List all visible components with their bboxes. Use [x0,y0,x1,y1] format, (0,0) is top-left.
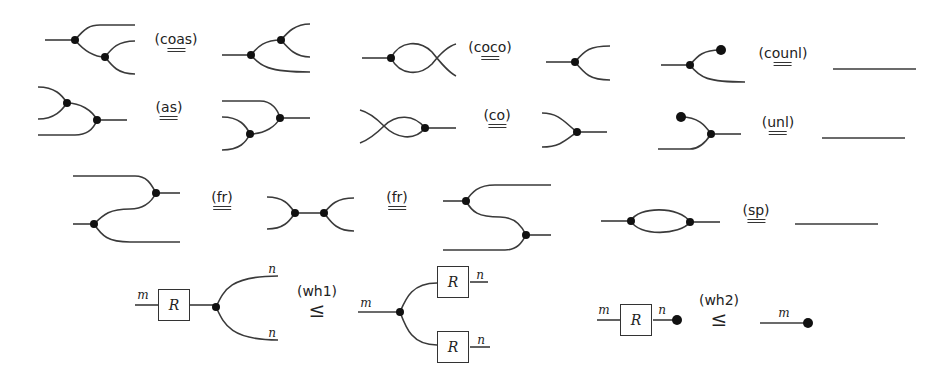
diagram-as-rhs [222,101,310,150]
wire-label-n: n [476,268,484,282]
axiom-label-coas: (coas) [154,32,197,52]
equals-sign [167,48,185,52]
axiom-label-wh2: (wh2)≤ [699,293,739,329]
equals-sign [481,56,499,60]
equals-sign [388,206,406,210]
axiom-label-coco: (coco) [468,40,511,60]
wire-label-m: m [598,303,609,317]
axiom-label-co: (co) [483,108,510,128]
diagram-as-lhs [38,87,127,135]
equals-sign [160,116,178,120]
equals-sign [213,206,231,210]
leq-sign: ≤ [297,300,337,320]
axiom-label-sp: (sp) [742,203,769,223]
axiom-label-as: (as) [156,100,183,120]
diagram-co-lhs [360,110,456,143]
diagram-coas-lhs [45,25,135,74]
diagram-co-rhs [542,113,607,147]
relation-box-r: R [437,266,469,298]
leq-sign: ≤ [699,309,739,329]
diagram-unl-lhs [658,112,741,149]
wire-label-n: n [268,326,276,340]
diagram-fr-rhs [443,185,551,250]
diagram-wh1-lhs [135,276,278,340]
equals-sign [747,219,765,223]
equals-sign [774,62,792,66]
diagram-counl-lhs [661,45,745,82]
diagram-coco-lhs [362,44,456,76]
axiom-label-unl: (unl) [762,115,795,135]
wire-label-n: n [658,303,666,317]
diagram-fr-lhs [73,176,180,242]
diagram-fr-middle [267,197,354,231]
diagram-coco-rhs [546,46,610,80]
axiom-label-wh1: (wh1)≤ [297,284,337,320]
wire-label-m: m [778,306,789,320]
axiom-label-fr: (fr) [386,190,408,210]
wire-label-m: m [137,288,148,302]
diagram-sp-lhs [601,210,720,233]
axiom-label-counl: (counl) [759,46,808,66]
wire-label-n: n [268,262,276,276]
wire-label-n: n [477,333,485,347]
diagram-coas-rhs [222,24,310,72]
relation-box-r: R [158,289,190,321]
relation-box-r: R [620,304,652,336]
equals-sign [488,124,506,128]
relation-box-r: R [437,331,469,363]
wire-label-m: m [360,296,371,310]
diagram-wh1-rhs [358,282,490,347]
equals-sign [769,131,787,135]
axiom-label-fr: (fr) [211,190,233,210]
